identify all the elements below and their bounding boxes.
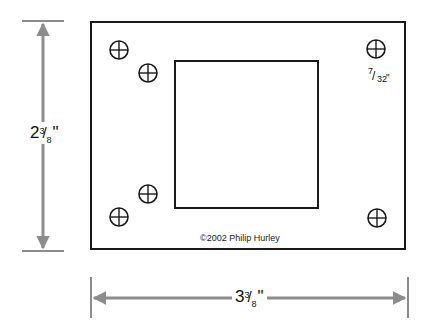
hole-crosshair-icon: [139, 185, 157, 203]
copyright-text: ©2002 Philip Hurley: [200, 233, 280, 243]
hole-crosshair-icon: [367, 40, 385, 58]
plate-outline: [91, 22, 405, 249]
height-dimension-label: 23/8": [30, 122, 59, 144]
hole-size-label: 7/32": [368, 68, 390, 84]
width-dimension-label: 33/8": [232, 288, 267, 306]
hole-crosshair-icon: [110, 41, 128, 59]
fraction: 7/32: [368, 68, 386, 84]
plate-drawing: [0, 0, 435, 331]
diagram-canvas: 23/8" 33/8" 7/32" ©2002 Philip Hurley: [0, 0, 435, 331]
hole-crosshair-icon: [368, 209, 386, 227]
hole-crosshair-icon: [110, 208, 128, 226]
hole-crosshair-icon: [139, 64, 157, 82]
center-cutout: [175, 61, 318, 208]
fraction: 3/8: [244, 288, 257, 304]
fraction: 3/8: [39, 124, 52, 140]
mounting-holes: [110, 40, 386, 227]
